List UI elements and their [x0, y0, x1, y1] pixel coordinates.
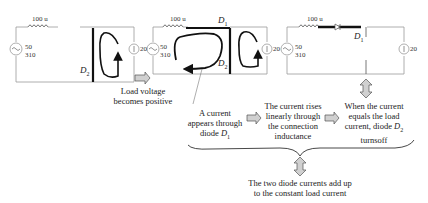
caption-current-rises: The current rises linearly through the c…	[258, 101, 328, 141]
current-loop-small-arrow	[239, 32, 258, 67]
diode-symbol	[335, 24, 340, 30]
source-voltage-3: 310	[295, 51, 306, 59]
source-voltage-2: 310	[160, 51, 171, 59]
caption-summary: The two diode currents add up to the con…	[240, 178, 360, 198]
double-arrow-vertical-2	[294, 157, 306, 176]
caption-load-voltage: Load voltage becomes positive	[108, 86, 178, 106]
inductor-label-2: 100 u	[170, 15, 186, 23]
load-current-3: 20	[410, 45, 417, 53]
source-freq-2: 50	[160, 43, 167, 51]
diode-label-d1: D1	[354, 31, 364, 43]
inductor-label-1: 100 u	[32, 15, 48, 23]
diode-label-d2: D2	[80, 65, 90, 77]
caption-current-appears: A current appears through diode D1	[183, 108, 247, 142]
load-current-1: 20	[140, 45, 147, 53]
caption-current-equals: When the current equals the load current…	[338, 101, 410, 145]
inductor-label-3: 100 u	[307, 15, 323, 23]
load-current-2: 20	[273, 45, 280, 53]
arrow-right-1	[135, 72, 150, 84]
double-arrow-vertical-1	[360, 79, 372, 98]
current-loop-arrow	[100, 33, 118, 77]
diode-label-d1: D1	[218, 15, 228, 27]
current-loop-large-arrow	[175, 33, 222, 69]
source-freq-1: 50	[25, 43, 32, 51]
diode-label-d2: D2	[218, 58, 228, 70]
source-freq-3: 50	[295, 43, 302, 51]
source-voltage-1: 310	[25, 51, 36, 59]
